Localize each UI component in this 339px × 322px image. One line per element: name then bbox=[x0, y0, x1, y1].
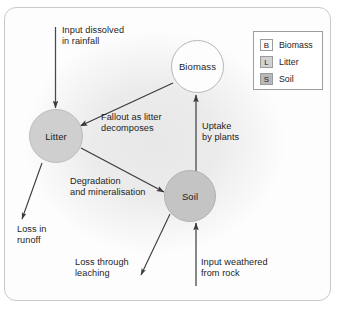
node-soil-label: Soil bbox=[182, 191, 198, 202]
legend-swatch-litter: L bbox=[260, 56, 273, 68]
node-soil[interactable]: Soil bbox=[164, 170, 216, 222]
nutrient-cycling-figure: Biomass Litter Soil Input dissolved in r… bbox=[0, 0, 339, 322]
legend: B Biomass L Litter S Soil bbox=[253, 31, 323, 90]
node-biomass-label: Biomass bbox=[179, 61, 216, 72]
node-biomass[interactable]: Biomass bbox=[171, 40, 224, 93]
flow-label-fallout: Fallout as litter decomposes bbox=[101, 112, 162, 134]
flow-label-degradation: Degradation and mineralisation bbox=[70, 176, 145, 198]
flow-label-uptake: Uptake by plants bbox=[202, 121, 239, 143]
legend-swatch-soil: S bbox=[260, 73, 273, 85]
legend-item-soil: S Soil bbox=[260, 71, 322, 87]
node-litter-label: Litter bbox=[45, 131, 67, 142]
legend-label-litter: Litter bbox=[279, 57, 299, 67]
flow-label-loss-runoff: Loss in runoff bbox=[17, 224, 46, 246]
arrow-loss-runoff bbox=[22, 163, 42, 219]
node-litter[interactable]: Litter bbox=[29, 109, 83, 163]
flow-label-loss-leaching: Loss through leaching bbox=[75, 257, 129, 279]
legend-label-soil: Soil bbox=[279, 74, 294, 84]
legend-swatch-biomass: B bbox=[260, 39, 273, 51]
flow-label-input-rainfall: Input dissolved in rainfall bbox=[62, 25, 124, 47]
legend-item-litter: L Litter bbox=[260, 54, 322, 70]
legend-item-biomass: B Biomass bbox=[260, 37, 322, 53]
flow-label-input-rock: Input weathered from rock bbox=[201, 257, 268, 279]
legend-label-biomass: Biomass bbox=[279, 40, 313, 50]
arrow-loss-leaching bbox=[141, 214, 170, 275]
